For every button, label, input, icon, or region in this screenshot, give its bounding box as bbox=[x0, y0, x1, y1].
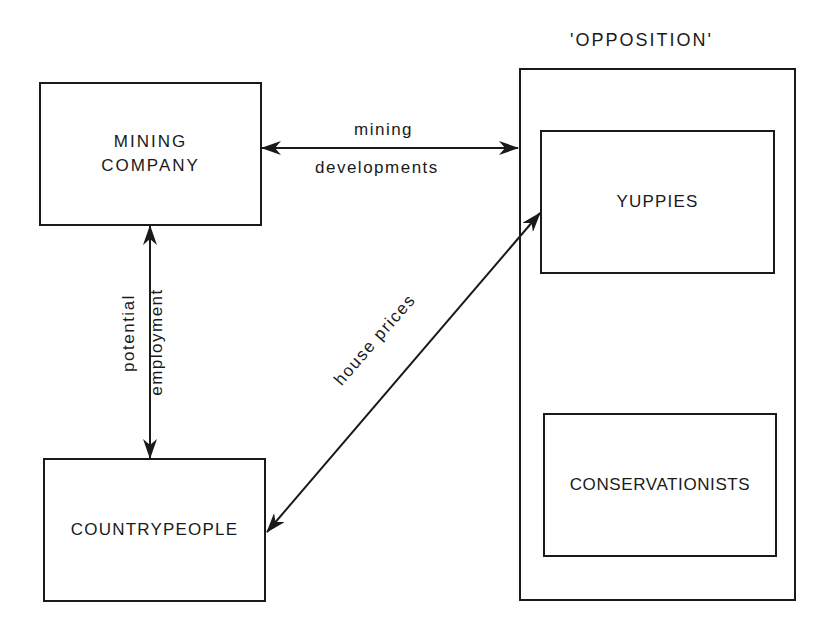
node-conservationists-label: CONSERVATIONISTS bbox=[570, 473, 751, 497]
edge-label-mining: mining bbox=[354, 120, 413, 140]
node-countrypeople-label: COUNTRYPEOPLE bbox=[71, 518, 238, 542]
group-opposition-title: 'OPPOSITION' bbox=[570, 30, 713, 51]
edge-label-employment: employment bbox=[147, 287, 167, 397]
node-mining-company: MINING COMPANY bbox=[39, 82, 262, 226]
node-yuppies: YUPPIES bbox=[540, 130, 775, 274]
label-line-1: MINING bbox=[101, 130, 200, 154]
edge-label-developments: developments bbox=[315, 158, 439, 178]
node-mining-company-label: MINING COMPANY bbox=[101, 130, 200, 178]
node-yuppies-label: YUPPIES bbox=[616, 190, 698, 214]
node-conservationists: CONSERVATIONISTS bbox=[543, 413, 777, 557]
house-prices-arrow bbox=[267, 213, 540, 532]
edge-label-potential: potential bbox=[119, 294, 139, 372]
node-countrypeople: COUNTRYPEOPLE bbox=[43, 458, 266, 602]
label-line-2: COMPANY bbox=[101, 154, 200, 178]
